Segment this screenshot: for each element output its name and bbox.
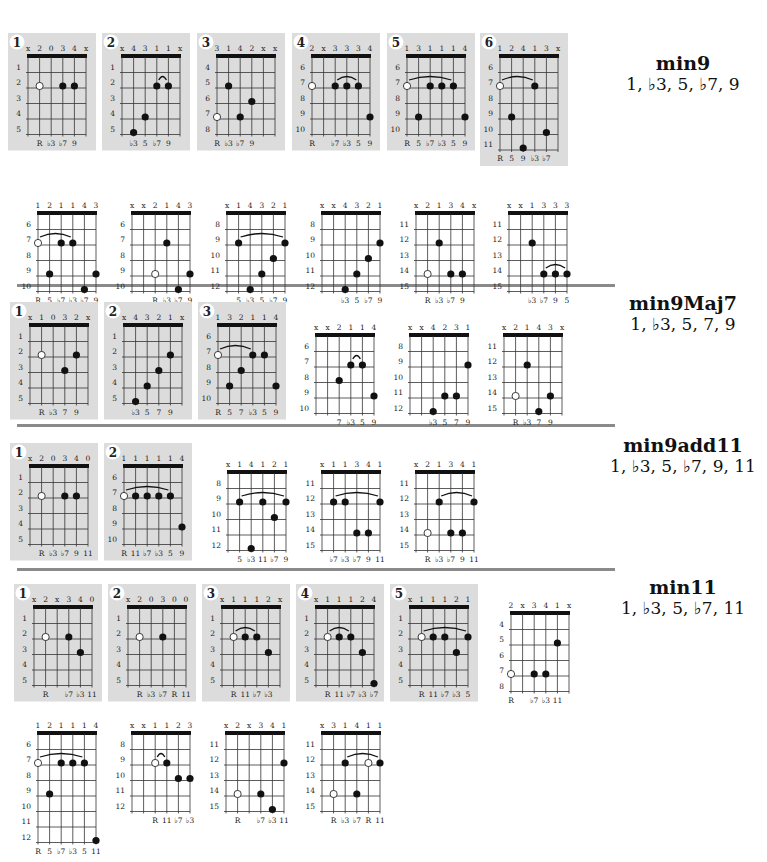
fretboard-svg: 5x1112112345R11♭7♭35 — [390, 584, 478, 702]
fretboard-svg: x14321891011125♭35♭79 — [207, 190, 295, 308]
fret-number: 6 — [120, 220, 125, 229]
fret-number: 1 — [22, 614, 27, 623]
fret-number: 9 — [26, 786, 31, 795]
finger-number: 1 — [226, 44, 231, 53]
note-marker — [376, 759, 383, 766]
note-marker — [280, 759, 287, 766]
fret-number: 4 — [110, 109, 115, 118]
finger-number: 1 — [405, 44, 410, 53]
note-marker — [73, 351, 80, 358]
diagram-number: 2 — [107, 36, 115, 50]
fret-number: 8 — [216, 479, 221, 488]
note-marker — [464, 633, 471, 640]
note-marker — [342, 286, 349, 293]
fret-number: 6 — [300, 63, 305, 72]
nut-bar — [29, 323, 89, 327]
finger-number: 1 — [348, 595, 353, 604]
fret-number: 12 — [393, 404, 403, 413]
interval-label: ♭7 — [59, 139, 68, 148]
finger-number: 1 — [282, 721, 287, 730]
fret-number: 5 — [16, 125, 21, 134]
interval-label: 9 — [366, 555, 371, 564]
diagram-number: 2 — [113, 587, 121, 601]
fret-number: 8 — [205, 125, 210, 134]
barre-arc — [441, 493, 472, 497]
fret-number: 3 — [116, 645, 121, 654]
root-note-marker — [424, 270, 431, 277]
note-marker — [415, 113, 422, 120]
chord-name: min9 — [598, 52, 767, 74]
diagram-number: 3 — [207, 587, 215, 601]
fret-number: 11 — [21, 817, 31, 826]
chord-diagram: 1x2034012345R♭3♭7911 — [10, 443, 98, 561]
finger-number: 1 — [437, 201, 442, 210]
interval-label: 7 — [337, 418, 342, 427]
finger-number: 1 — [366, 721, 371, 730]
interval-label: R — [121, 549, 127, 558]
fret-number: 15 — [399, 282, 409, 291]
fret-number: 5 — [110, 125, 115, 134]
nut-bar — [127, 605, 187, 609]
finger-number: 1 — [284, 460, 289, 469]
finger-number: 3 — [541, 201, 546, 210]
interval-label: R — [43, 690, 49, 699]
interval-label: ♭7 — [153, 139, 162, 148]
chord-name: min11 — [598, 576, 767, 598]
note-marker — [343, 82, 350, 89]
interval-label: 9 — [463, 139, 468, 148]
fretboard-svg: x213411112131415R♭3♭7911 — [396, 449, 484, 567]
fretboard-svg: 4x1112412345R11♭7♭3♭7 — [296, 584, 384, 702]
note-marker — [65, 633, 72, 640]
finger-number: 1 — [525, 323, 530, 332]
fret-number: 11 — [483, 140, 493, 149]
diagram-number: 1 — [15, 446, 23, 460]
interval-label: ♭7 — [257, 816, 266, 825]
fret-number: 3 — [398, 645, 403, 654]
fretboard-svg: 2x4321x12345♭3579 — [104, 302, 192, 420]
nut-bar — [409, 605, 469, 609]
fret-number: 8 — [304, 373, 309, 382]
finger-number: 3 — [331, 721, 336, 730]
note-marker — [46, 270, 53, 277]
fret-number: 2 — [18, 488, 23, 497]
interval-label: ♭3 — [523, 418, 532, 427]
nut-bar — [123, 323, 183, 327]
interval-label: 7 — [536, 418, 541, 427]
chord-diagram: 2x4321x12345♭3579 — [104, 302, 192, 420]
root-note-marker — [365, 759, 372, 766]
fret-number: 3 — [18, 504, 23, 513]
interval-label: 5 — [143, 139, 148, 148]
finger-number: 0 — [49, 44, 54, 53]
interval-label: 11 — [279, 816, 289, 825]
root-note-marker — [136, 633, 143, 640]
fret-number: 12 — [399, 235, 409, 244]
finger-number: 4 — [248, 201, 253, 210]
note-marker — [167, 492, 174, 499]
fret-number: 10 — [107, 535, 117, 544]
fret-number: 1 — [116, 614, 121, 623]
note-marker — [453, 649, 460, 656]
fret-number: 11 — [305, 266, 315, 275]
diagram-number: 2 — [109, 446, 117, 460]
note-marker — [355, 82, 362, 89]
fret-number: 3 — [110, 94, 115, 103]
diagram-number: 1 — [15, 305, 23, 319]
barre-arc — [157, 754, 165, 758]
finger-number: 3 — [333, 44, 338, 53]
fret-number: 2 — [22, 629, 27, 638]
finger-number: 3 — [215, 44, 220, 53]
finger-number: 3 — [544, 44, 549, 53]
fret-number: 2 — [18, 347, 23, 356]
nut-bar — [503, 333, 563, 337]
note-marker — [366, 113, 373, 120]
chord-diagram: 1x1032x12345R♭379 — [10, 302, 98, 420]
interval-label: 7 — [156, 408, 161, 417]
diagram-number: 1 — [19, 587, 27, 601]
fret-number: 7 — [120, 235, 125, 244]
fret-number: 14 — [399, 525, 409, 534]
fret-number: 11 — [211, 525, 221, 534]
note-marker — [265, 649, 272, 656]
interval-label: 9 — [466, 418, 471, 427]
interval-label: 9 — [72, 139, 77, 148]
interval-label: R — [35, 847, 41, 856]
